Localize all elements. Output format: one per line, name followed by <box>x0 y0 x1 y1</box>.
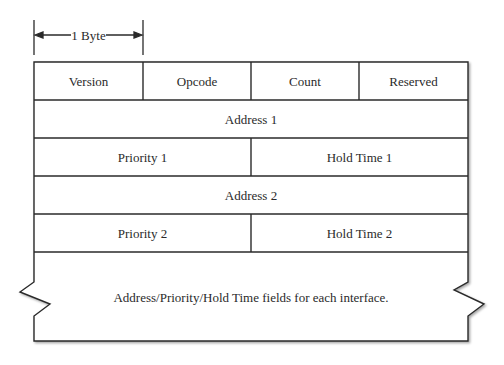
field-priority-1: Priority 1 <box>118 150 167 165</box>
field-address-1: Address 1 <box>225 112 277 127</box>
field-hold-time-1: Hold Time 1 <box>327 150 393 165</box>
field-count: Count <box>289 74 321 89</box>
scale-label: 1 Byte <box>71 28 106 43</box>
field-priority-2: Priority 2 <box>118 226 167 241</box>
packet-format-diagram: 1 Byte Version Opcode Count Reserved Add… <box>0 0 504 365</box>
field-address-2: Address 2 <box>225 188 277 203</box>
field-repeated-interfaces: Address/Priority/Hold Time fields for ea… <box>113 290 388 305</box>
field-opcode: Opcode <box>177 74 218 89</box>
field-hold-time-2: Hold Time 2 <box>327 226 393 241</box>
arrow-right-icon <box>134 32 142 38</box>
arrow-left-icon <box>35 32 43 38</box>
field-version: Version <box>69 74 109 89</box>
field-reserved: Reserved <box>389 74 438 89</box>
